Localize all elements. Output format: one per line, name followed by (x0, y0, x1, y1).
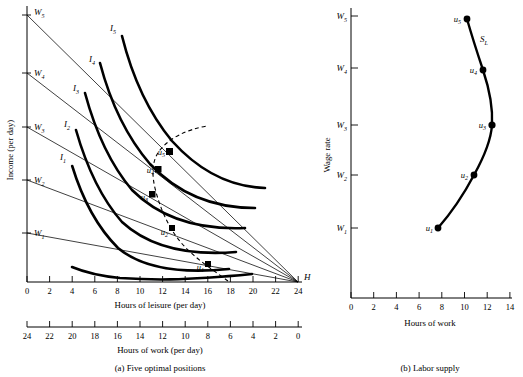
svg-text:0: 0 (25, 286, 29, 296)
curve-label-i4: I4 (88, 54, 95, 66)
supply-point-u1 (435, 225, 442, 232)
svg-text:8: 8 (440, 302, 444, 312)
optimum-point-u5 (166, 148, 173, 155)
supply-point-u3 (488, 121, 495, 128)
svg-text:14: 14 (506, 302, 515, 312)
panel-a-work-tick-labels: 24 22 20 18 16 14 12 10 8 6 4 2 0 (23, 331, 301, 341)
panel-b-work-tick-labels: 0 2 4 6 8 10 12 14 (349, 302, 515, 312)
panel-a-caption: (a) Five optimal positions (115, 363, 206, 373)
svg-text:22: 22 (271, 286, 280, 296)
svg-text:20: 20 (68, 331, 77, 341)
endpoint-label-h: H (303, 272, 311, 282)
panel-b-x-axis-label: Hours of work (404, 318, 456, 328)
svg-text:2: 2 (372, 302, 376, 312)
panel-b-point-labels: u1 u2 u3 u4 u5 (426, 14, 486, 234)
panel-b-points (435, 16, 496, 232)
svg-text:0: 0 (349, 302, 353, 312)
panel-b-wage-label-w3: W3 (337, 120, 348, 132)
optimum-label-u3: u3 (141, 192, 148, 203)
svg-text:6: 6 (228, 331, 232, 341)
curve-label-i2: I2 (63, 119, 70, 131)
svg-text:24: 24 (294, 286, 303, 296)
panel-b-wage-label-w2: W2 (337, 170, 348, 182)
labor-supply-curve (438, 19, 492, 228)
optimum-label-u2: u2 (161, 227, 168, 238)
panel-b-caption: (b) Labor supply (400, 363, 460, 373)
supply-point-u4 (480, 67, 487, 74)
panel-a-work-ticks (27, 321, 298, 327)
panel-b-y-axis-label: Wage rate (322, 137, 332, 172)
svg-text:24: 24 (23, 331, 32, 341)
panel-b: 0 2 4 6 8 10 12 14 Hours of work Wage ra… (322, 8, 515, 373)
budget-line-w1 (27, 233, 298, 282)
wage-label-w3: W3 (34, 122, 45, 134)
supply-label-u2: u2 (461, 170, 468, 181)
figure-svg: 0 2 4 6 8 10 12 14 16 18 20 22 24 Hours … (0, 0, 523, 377)
svg-text:10: 10 (136, 286, 145, 296)
panel-b-wage-ticks (351, 16, 358, 228)
svg-text:8: 8 (115, 286, 119, 296)
svg-text:2: 2 (47, 286, 51, 296)
wage-label-w2: W2 (34, 175, 45, 187)
budget-line-w5 (27, 15, 298, 282)
svg-text:8: 8 (206, 331, 210, 341)
panel-a-wage-labels: W1 W2 W3 W4 W5 (34, 7, 45, 240)
svg-text:12: 12 (158, 286, 167, 296)
panel-b-wage-label-w1: W1 (337, 223, 348, 235)
svg-text:18: 18 (226, 286, 235, 296)
svg-text:20: 20 (249, 286, 258, 296)
wage-label-w1: W1 (34, 228, 45, 240)
panel-a: 0 2 4 6 8 10 12 14 16 18 20 22 24 Hours … (5, 6, 311, 373)
panel-a-budget-lines (27, 15, 298, 282)
indifference-curve-i2 (76, 130, 236, 253)
svg-text:10: 10 (181, 331, 190, 341)
optimum-point-u3 (149, 191, 156, 198)
supply-label-u1: u1 (426, 223, 433, 234)
svg-text:10: 10 (460, 302, 469, 312)
svg-text:2: 2 (273, 331, 277, 341)
svg-text:4: 4 (251, 331, 256, 341)
budget-line-w3 (27, 127, 298, 282)
supply-label-u3: u3 (479, 120, 486, 131)
panel-b-wage-label-w4: W4 (337, 63, 348, 75)
panel-a-x-axis-label-top: Hours of leisure (per day) (115, 300, 206, 310)
svg-text:16: 16 (204, 286, 213, 296)
optimum-point-u1 (205, 261, 211, 267)
supply-label-u4: u4 (470, 65, 477, 76)
panel-b-work-ticks (351, 292, 510, 298)
svg-text:16: 16 (113, 331, 122, 341)
wage-label-w4: W4 (34, 68, 45, 80)
panel-b-wage-labels: W1 W2 W3 W4 W5 (337, 11, 348, 235)
panel-a-x-axis-label-bottom: Hours of work (per day) (117, 345, 203, 355)
panel-a-curve-labels: I1 I2 I3 I4 I5 (59, 23, 116, 164)
svg-text:22: 22 (45, 331, 54, 341)
svg-text:14: 14 (181, 286, 190, 296)
svg-text:12: 12 (483, 302, 492, 312)
labor-supply-figure: 0 2 4 6 8 10 12 14 16 18 20 22 24 Hours … (0, 0, 523, 377)
panel-b-wage-label-w5: W5 (337, 11, 348, 23)
panel-a-leisure-tick-labels: 0 2 4 6 8 10 12 14 16 18 20 22 24 (25, 286, 303, 296)
wage-label-w5: W5 (34, 7, 45, 19)
supply-label-u5: u5 (454, 14, 461, 25)
optimum-point-u2 (169, 225, 175, 231)
svg-text:18: 18 (91, 331, 100, 341)
indifference-curve-i5 (122, 36, 265, 188)
optimum-label-u5: u5 (158, 147, 165, 158)
curve-label-i5: I5 (109, 23, 116, 35)
svg-text:4: 4 (394, 302, 399, 312)
svg-text:4: 4 (70, 286, 75, 296)
supply-point-u2 (471, 172, 478, 179)
panel-a-y-axis-label: Income (per day) (5, 120, 15, 181)
curve-label-i1: I1 (59, 152, 66, 164)
svg-text:6: 6 (93, 286, 97, 296)
curve-label-i3: I3 (72, 83, 79, 95)
supply-point-u5 (464, 16, 471, 23)
svg-text:12: 12 (158, 331, 167, 341)
optimum-label-u1: u1 (197, 262, 204, 273)
supply-curve-label: SL (480, 34, 489, 46)
svg-text:14: 14 (136, 331, 145, 341)
svg-text:6: 6 (417, 302, 421, 312)
svg-text:0: 0 (296, 331, 300, 341)
optimum-point-u4 (155, 166, 162, 173)
indifference-curve-i3 (85, 93, 245, 228)
